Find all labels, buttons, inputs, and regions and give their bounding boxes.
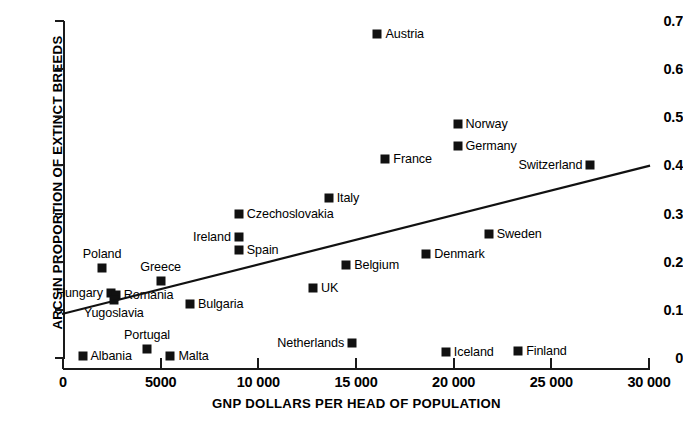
data-point-marker[interactable] <box>166 352 175 361</box>
data-point-label: Germany <box>466 140 517 152</box>
data-point-marker[interactable] <box>234 233 243 242</box>
data-point-marker[interactable] <box>514 346 523 355</box>
data-point-label: UK <box>321 282 338 294</box>
data-point-label: Iceland <box>454 346 494 358</box>
data-point-marker[interactable] <box>109 296 118 305</box>
data-point-label: Yugoslavia <box>84 307 144 319</box>
data-point-label: Finland <box>526 345 567 357</box>
data-point-label: Sweden <box>497 228 542 240</box>
data-point-marker[interactable] <box>586 160 595 169</box>
data-point-marker[interactable] <box>422 250 431 259</box>
scatter-plot-figure: ARCSIN PROPORTION OF EXTINCT BREEDS GNP … <box>0 0 683 434</box>
data-point-marker[interactable] <box>484 229 493 238</box>
data-point-label: Ireland <box>193 231 231 243</box>
data-point-marker[interactable] <box>441 348 450 357</box>
data-point-marker[interactable] <box>324 193 333 202</box>
data-point-label: Norway <box>466 118 508 130</box>
data-point-marker[interactable] <box>185 300 194 309</box>
data-point-marker[interactable] <box>234 246 243 255</box>
data-point-label: Hungary <box>56 287 103 299</box>
plot-area: AustriaNorwayGermanyFranceSwitzerlandIta… <box>0 0 683 434</box>
data-point-label: Malta <box>178 350 208 362</box>
data-point-marker[interactable] <box>234 209 243 218</box>
data-point-marker[interactable] <box>348 338 357 347</box>
data-point-marker[interactable] <box>78 352 87 361</box>
data-point-marker[interactable] <box>381 154 390 163</box>
data-point-label: Czechoslovakia <box>247 208 334 220</box>
data-point-marker[interactable] <box>309 284 318 293</box>
data-point-label: Albania <box>91 350 132 362</box>
data-point-label: Denmark <box>434 248 484 260</box>
data-point-label: Italy <box>337 192 360 204</box>
data-point-label: Belgium <box>354 259 399 271</box>
data-point-label: Poland <box>83 248 122 260</box>
data-point-marker[interactable] <box>373 30 382 39</box>
data-point-label: Romania <box>124 289 174 301</box>
data-point-marker[interactable] <box>142 345 151 354</box>
data-point-marker[interactable] <box>156 276 165 285</box>
data-point-label: Netherlands <box>277 337 344 349</box>
data-point-label: Greece <box>140 261 181 273</box>
data-point-marker[interactable] <box>453 120 462 129</box>
data-point-marker[interactable] <box>453 141 462 150</box>
data-point-label: Portugal <box>124 329 170 341</box>
data-point-label: Spain <box>247 244 279 256</box>
data-point-label: France <box>393 153 432 165</box>
data-point-label: Switzerland <box>518 159 582 171</box>
data-point-marker[interactable] <box>98 263 107 272</box>
data-point-label: Bulgaria <box>198 298 243 310</box>
data-point-marker[interactable] <box>342 260 351 269</box>
data-point-label: Austria <box>385 28 424 40</box>
